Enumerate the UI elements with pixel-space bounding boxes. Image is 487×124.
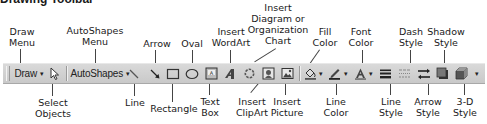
rectangle-button[interactable]: [164, 64, 182, 83]
label-line-style: Line Style: [379, 96, 403, 118]
rectangle-icon: [166, 68, 180, 80]
font-color-button[interactable]: [352, 64, 368, 83]
picture-icon: [281, 67, 294, 80]
figure-title: Drawing Toolbar: [0, 0, 94, 6]
autoshapes-menu-label: AutoShapes: [70, 68, 123, 79]
label-line: Line: [125, 97, 145, 108]
arrow-style-button[interactable]: [415, 64, 432, 83]
3d-cube-icon: [455, 67, 468, 80]
font-color-a-icon: [354, 67, 367, 80]
label-arrow-style: Arrow Style: [414, 96, 442, 118]
line-style-icon: [379, 68, 392, 79]
label-shadow-style: Shadow Style: [427, 26, 465, 48]
insert-clipart-button[interactable]: [259, 64, 277, 83]
text-box-button[interactable]: A: [202, 64, 220, 83]
shadow-icon: [436, 67, 449, 80]
label-select-objects: Select Objects: [35, 97, 71, 119]
toolbar-separator: [66, 66, 68, 81]
label-oval: Oval: [181, 38, 203, 49]
diagram-icon: [243, 67, 256, 80]
3d-style-button[interactable]: [453, 64, 470, 83]
label-insert-picture: Insert Picture: [271, 96, 304, 118]
shadow-style-button[interactable]: [434, 64, 451, 83]
label-insert-clipart: Insert ClipArt: [236, 96, 268, 118]
text-box-icon: A: [205, 67, 218, 80]
dash-style-button[interactable]: [396, 64, 413, 83]
dash-style-icon: [398, 68, 411, 79]
drawing-toolbar: Draw ▾ AutoShapes ▾: [3, 63, 485, 84]
label-dash-style: Dash Style: [399, 26, 423, 48]
leader-shadow-style: [444, 50, 445, 64]
line-color-button[interactable]: [326, 64, 343, 83]
line-style-button[interactable]: [377, 64, 394, 83]
paint-bucket-icon: [304, 67, 317, 80]
oval-button[interactable]: [183, 64, 201, 83]
label-line-color: Line Color: [324, 96, 349, 118]
leader-autoshapes-menu: [95, 49, 96, 63]
wordart-icon: [224, 67, 237, 80]
insert-wordart-button[interactable]: [221, 64, 239, 83]
arrow-button[interactable]: [147, 64, 163, 83]
label-text-box: Text Box: [200, 96, 219, 118]
leader-draw-menu: [20, 49, 21, 63]
select-objects-button[interactable]: [47, 64, 63, 83]
clipart-icon: [262, 67, 275, 80]
toolbar-separator: [299, 66, 301, 81]
insert-picture-button[interactable]: [278, 64, 296, 83]
arrow-icon: [149, 68, 161, 80]
label-arrow: Arrow: [143, 38, 171, 49]
label-font-color: Font Color: [349, 26, 374, 48]
label-draw-menu: Draw Menu: [9, 26, 35, 48]
leader-insert-diagram: [254, 48, 276, 62]
oval-icon: [185, 68, 199, 80]
label-insert-wordart: Insert WordArt: [212, 26, 251, 48]
fill-color-button[interactable]: [302, 64, 318, 83]
line-color-dropdown[interactable]: ▾: [344, 64, 348, 83]
insert-diagram-button[interactable]: [240, 64, 258, 83]
svg-text:A: A: [209, 70, 213, 76]
label-3d-style: 3-D Style: [453, 96, 477, 118]
label-autoshapes-menu: AutoShapes Menu: [67, 25, 124, 47]
line-icon: [128, 68, 140, 80]
line-button[interactable]: [126, 64, 142, 83]
draw-menu-button[interactable]: Draw ▾: [11, 64, 47, 83]
label-rectangle: Rectangle: [150, 103, 197, 114]
label-insert-diagram: Insert Diagram or Organization Chart: [248, 2, 309, 46]
pointer-arrow-icon: [50, 67, 60, 80]
draw-menu-label: Draw: [14, 68, 37, 79]
fill-color-dropdown[interactable]: ▾: [319, 64, 323, 83]
toolbar-grip-handle[interactable]: [6, 66, 10, 81]
toolbar-options-dropdown[interactable]: ▾: [475, 64, 479, 83]
label-fill-color: Fill Color: [313, 26, 338, 48]
font-color-dropdown[interactable]: ▾: [369, 64, 373, 83]
arrow-style-icon: [417, 68, 431, 80]
autoshapes-menu-button[interactable]: AutoShapes ▾: [70, 64, 130, 83]
chevron-down-icon: ▾: [40, 70, 44, 78]
pen-icon: [328, 67, 341, 80]
